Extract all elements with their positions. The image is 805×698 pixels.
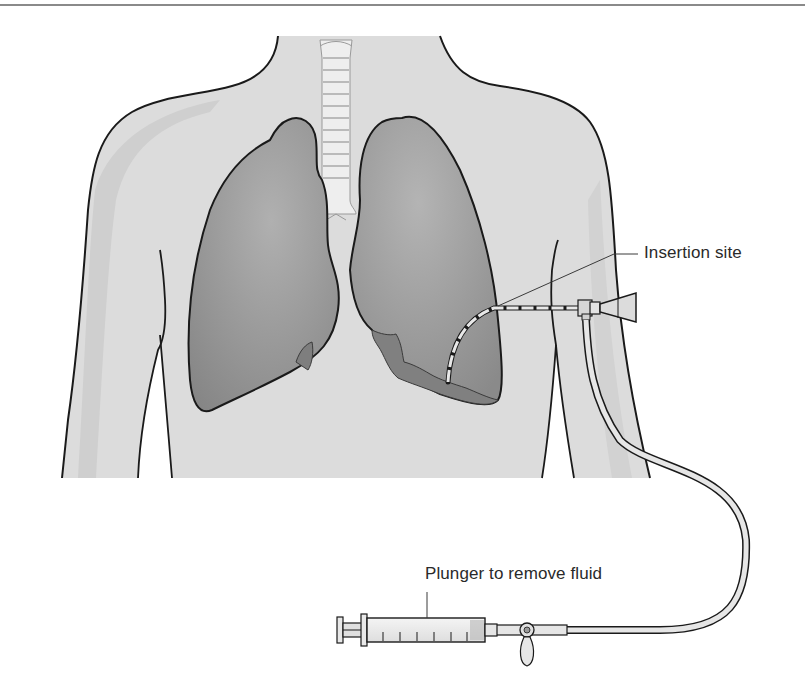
chest-illustration xyxy=(0,0,805,698)
syringe-tip xyxy=(485,624,497,636)
syringe-plunger-thumb xyxy=(337,617,343,643)
syringe-flange xyxy=(361,614,367,646)
figure-frame: Insertion site Plunger to remove fluid xyxy=(0,0,805,698)
three-way-stopcock xyxy=(495,623,567,666)
plunger-label: Plunger to remove fluid xyxy=(425,564,602,584)
syringe xyxy=(337,614,497,646)
insertion-site-label: Insertion site xyxy=(644,243,742,263)
